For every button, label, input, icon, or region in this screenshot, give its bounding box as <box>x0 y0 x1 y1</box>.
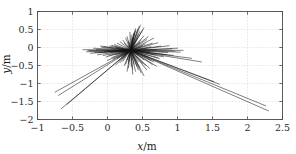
y-tick-label: −0.5 <box>10 60 33 71</box>
y-axis-tick-labels: 10.50−0.5−1−1.5−2 <box>10 6 33 125</box>
svg-text:x/m: x/m <box>137 140 156 152</box>
x-tick-label: 1.5 <box>205 122 220 133</box>
x-axis-title: x/m <box>137 140 156 152</box>
y-tick-label: −1 <box>19 78 33 89</box>
y-tick-label: 0 <box>27 42 33 53</box>
y-axis-title: y/m <box>0 54 12 74</box>
x-tick-label: 2 <box>244 122 250 133</box>
y-tick-label: 0.5 <box>18 24 33 35</box>
x-tick-label: 0.5 <box>135 122 150 133</box>
scatter-plot: −1−0.500.511.522.5 10.50−0.5−1−1.5−2 x/m… <box>0 0 296 154</box>
y-axis-title-unit: /m <box>0 54 12 68</box>
figure-container: −1−0.500.511.522.5 10.50−0.5−1−1.5−2 x/m… <box>0 0 296 154</box>
x-tick-label: 2.5 <box>275 122 290 133</box>
x-tick-label: −0.5 <box>61 122 84 133</box>
svg-text:y/m: y/m <box>0 54 12 74</box>
y-tick-label: −1.5 <box>10 96 33 107</box>
x-tick-label: 1 <box>174 122 180 133</box>
y-tick-label: 1 <box>27 6 33 17</box>
x-tick-label: 0 <box>104 122 110 133</box>
x-axis-tick-labels: −1−0.500.511.522.5 <box>30 122 290 133</box>
y-tick-label: −2 <box>19 114 33 125</box>
x-axis-title-unit: /m <box>143 140 157 152</box>
